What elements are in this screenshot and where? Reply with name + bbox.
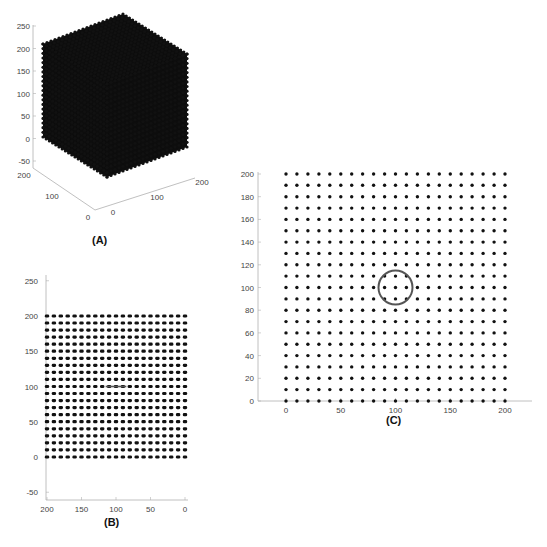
svg-text:50: 50 — [146, 505, 155, 514]
svg-text:50: 50 — [21, 112, 30, 121]
svg-text:0: 0 — [86, 213, 91, 222]
caption-b: (B) — [104, 516, 119, 528]
svg-text:200: 200 — [40, 505, 54, 514]
svg-text:100: 100 — [150, 193, 164, 202]
svg-text:200: 200 — [17, 45, 31, 54]
svg-text:150: 150 — [17, 67, 31, 76]
svg-text:250: 250 — [17, 22, 31, 31]
svg-text:160: 160 — [241, 215, 255, 224]
svg-text:180: 180 — [241, 193, 255, 202]
svg-text:200: 200 — [241, 170, 255, 179]
svg-text:100: 100 — [45, 192, 59, 201]
svg-text:150: 150 — [444, 406, 458, 415]
panel-c-points — [284, 172, 506, 402]
svg-text:100: 100 — [25, 383, 39, 392]
svg-text:200: 200 — [25, 312, 39, 321]
svg-text:0: 0 — [26, 135, 31, 144]
svg-text:0: 0 — [111, 208, 116, 217]
svg-text:80: 80 — [245, 306, 254, 315]
svg-text:50: 50 — [29, 418, 38, 427]
caption-a: (A) — [92, 234, 107, 246]
svg-text:200: 200 — [498, 406, 512, 415]
svg-text:150: 150 — [75, 505, 89, 514]
svg-text:0: 0 — [284, 406, 289, 415]
svg-text:100: 100 — [241, 284, 255, 293]
svg-text:100: 100 — [109, 505, 123, 514]
svg-text:200: 200 — [17, 171, 31, 180]
svg-text:100: 100 — [17, 90, 31, 99]
svg-text:150: 150 — [25, 347, 39, 356]
panel-c-top-view: 020406080100120140160180200050100150200 — [241, 170, 532, 415]
svg-text:0: 0 — [250, 397, 255, 406]
figure-canvas: -5005010015020025001002002001000 -500501… — [0, 0, 547, 547]
svg-text:20: 20 — [245, 374, 254, 383]
panel-b-tick-labels: -50050100150200250200150100500 — [25, 277, 188, 514]
svg-text:120: 120 — [241, 261, 255, 270]
svg-text:-50: -50 — [18, 157, 30, 166]
svg-text:50: 50 — [336, 406, 345, 415]
svg-text:0: 0 — [34, 453, 39, 462]
svg-text:140: 140 — [241, 238, 255, 247]
svg-text:40: 40 — [245, 352, 254, 361]
panel-b-side-view: -50050100150200250200150100500 — [25, 275, 188, 514]
svg-text:200: 200 — [195, 178, 209, 187]
caption-c: (C) — [386, 414, 401, 426]
svg-text:0: 0 — [183, 505, 188, 514]
svg-text:250: 250 — [25, 277, 39, 286]
panel-a-points — [41, 12, 188, 178]
panel-a-3d-lattice: -5005010015020025001002002001000 — [17, 12, 210, 222]
svg-text:-50: -50 — [26, 488, 38, 497]
svg-text:60: 60 — [245, 329, 254, 338]
